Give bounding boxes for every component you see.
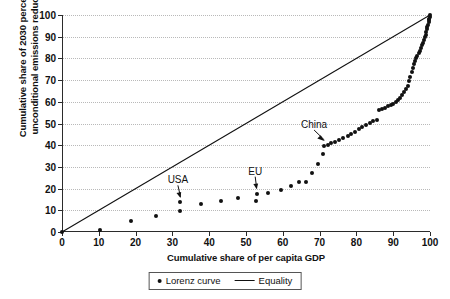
y-tick-label: 60 [45, 96, 56, 107]
x-tick-mark [393, 232, 394, 236]
legend-line-marker-icon [235, 280, 255, 281]
x-tick-mark [209, 232, 210, 236]
y-tick-label: 70 [45, 75, 56, 86]
y-axis-label-line2: unconditional emissions reductions [29, 0, 41, 170]
y-tick-label: 20 [45, 183, 56, 194]
y-tick-label: 30 [45, 161, 56, 172]
plot-area: 0102030405060708090100 01020304050607080… [62, 15, 430, 232]
x-tick-mark [136, 232, 137, 236]
annotation-arrow-china [62, 15, 430, 232]
y-tick-label: 40 [45, 140, 56, 151]
legend-label-lorenz-curve: Lorenz curve [166, 275, 221, 286]
y-tick-label: 100 [39, 10, 56, 21]
x-tick-label: 20 [130, 237, 141, 248]
x-tick-label: 0 [59, 237, 65, 248]
x-tick-label: 40 [204, 237, 215, 248]
y-tick-label: 80 [45, 53, 56, 64]
x-tick-label: 10 [93, 237, 104, 248]
x-tick-mark [356, 232, 357, 236]
chart-legend: Lorenz curve Equality [149, 272, 302, 290]
legend-label-equality: Equality [259, 275, 293, 286]
y-axis-label-line1: Cumulative share of 2030 percentage [17, 0, 29, 170]
x-tick-mark [172, 232, 173, 236]
legend-item-lorenz-curve: Lorenz curve [158, 275, 221, 286]
chart-figure: Cumulative share of 2030 percentage unco… [0, 0, 450, 299]
y-tick-label: 0 [50, 227, 56, 238]
y-tick-label: 50 [45, 118, 56, 129]
x-tick-label: 100 [422, 237, 439, 248]
x-tick-label: 70 [314, 237, 325, 248]
x-tick-mark [246, 232, 247, 236]
legend-item-equality: Equality [235, 275, 293, 286]
y-axis-label: Cumulative share of 2030 percentage unco… [17, 0, 41, 170]
x-axis-label: Cumulative share of per capita GDP [62, 252, 430, 263]
x-tick-label: 80 [351, 237, 362, 248]
y-tick-label: 90 [45, 31, 56, 42]
y-tick-label: 10 [45, 205, 56, 216]
legend-dot-marker-icon [158, 279, 162, 283]
x-tick-label: 90 [388, 237, 399, 248]
x-tick-mark [283, 232, 284, 236]
x-tick-label: 60 [277, 237, 288, 248]
x-tick-mark [320, 232, 321, 236]
x-tick-mark [430, 232, 431, 236]
x-tick-label: 50 [240, 237, 251, 248]
x-tick-label: 30 [167, 237, 178, 248]
x-tick-mark [99, 232, 100, 236]
